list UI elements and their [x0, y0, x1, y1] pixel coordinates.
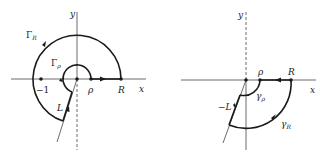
point-origin	[244, 78, 248, 82]
left-figure: y x −1 ρ R ΓR Γρ L	[11, 9, 146, 150]
gamma-R-label: ΓR	[26, 30, 37, 41]
right-figure: y x ρ R −L γρ γR	[181, 10, 316, 150]
point-rho	[89, 77, 93, 81]
x-label: x	[139, 84, 144, 94]
arrow-icon	[275, 78, 281, 83]
gamma-rho-label: Γρ	[51, 58, 61, 70]
point-rho	[258, 78, 262, 82]
point-neg-one	[39, 77, 43, 81]
y-label: y	[237, 10, 244, 20]
point-R	[119, 77, 123, 81]
gamma-R-label: γR	[281, 119, 291, 130]
point-R	[289, 78, 293, 82]
R-label: R	[287, 67, 295, 77]
negL-label: −L	[218, 102, 232, 112]
gamma-rho-label: γρ	[256, 91, 265, 103]
point-origin	[75, 77, 79, 81]
neg-one-label: −1	[36, 85, 49, 95]
y-label: y	[69, 9, 76, 19]
x-label: x	[310, 85, 315, 95]
arrow-icon	[42, 41, 46, 47]
L-label: L	[56, 103, 63, 113]
L-segment	[63, 92, 72, 121]
rho-label: ρ	[87, 85, 94, 95]
rho-label: ρ	[257, 67, 264, 77]
R-label: R	[117, 85, 125, 95]
arrow-icon	[100, 77, 106, 82]
contour-diagrams: y x −1 ρ R ΓR Γρ L y x ρ R −L γρ γ	[0, 0, 327, 156]
